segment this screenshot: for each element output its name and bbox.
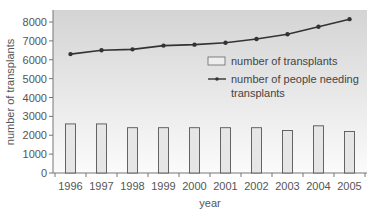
x-tick-label: 2005 <box>337 180 361 192</box>
y-tick-label: 2000 <box>23 129 47 141</box>
bar <box>345 131 355 173</box>
line-marker <box>285 32 289 36</box>
bar <box>97 124 107 173</box>
y-tick-label: 8000 <box>23 16 47 28</box>
x-axis: 1996199719981999200020012002200320042005 <box>53 173 367 192</box>
y-tick-label: 1000 <box>23 148 47 160</box>
line-marker <box>223 41 227 45</box>
line-marker <box>192 42 196 46</box>
y-tick-label: 7000 <box>23 35 47 47</box>
x-tick-label: 1997 <box>89 180 113 192</box>
bar <box>66 124 76 173</box>
x-tick-label: 2002 <box>244 180 268 192</box>
y-tick-label: 0 <box>41 167 47 179</box>
bar <box>128 128 138 173</box>
bar <box>252 128 262 173</box>
y-axis: 010002000300040005000600070008000 <box>23 10 53 179</box>
x-tick-label: 1999 <box>151 180 175 192</box>
legend-line-marker-icon <box>215 77 219 81</box>
legend-line-label-cont: transplants <box>231 87 285 99</box>
x-tick-label: 1998 <box>120 180 144 192</box>
line-marker <box>161 43 165 47</box>
chart: 010002000300040005000600070008000 199619… <box>0 0 379 212</box>
bar <box>159 128 169 173</box>
y-tick-label: 3000 <box>23 110 47 122</box>
x-tick-label: 1996 <box>58 180 82 192</box>
legend-line-label: number of people needing <box>231 73 359 85</box>
line-marker <box>130 47 134 51</box>
y-tick-label: 4000 <box>23 92 47 104</box>
x-axis-title: year <box>199 197 221 209</box>
bar <box>283 131 293 173</box>
x-tick-label: 2001 <box>213 180 237 192</box>
y-tick-label: 6000 <box>23 54 47 66</box>
bar <box>314 126 324 173</box>
y-tick-label: 5000 <box>23 73 47 85</box>
x-tick-label: 2000 <box>182 180 206 192</box>
y-axis-title: number of transplants <box>4 38 16 145</box>
line-marker <box>99 48 103 52</box>
x-tick-label: 2003 <box>275 180 299 192</box>
line-marker <box>347 17 351 21</box>
bar <box>190 128 200 173</box>
legend-bar-swatch <box>208 57 225 65</box>
line-marker <box>316 25 320 29</box>
x-tick-label: 2004 <box>306 180 330 192</box>
bar <box>221 128 231 173</box>
legend-bar-label: number of transplants <box>231 55 338 67</box>
line-marker <box>68 52 72 56</box>
line-marker <box>254 37 258 41</box>
